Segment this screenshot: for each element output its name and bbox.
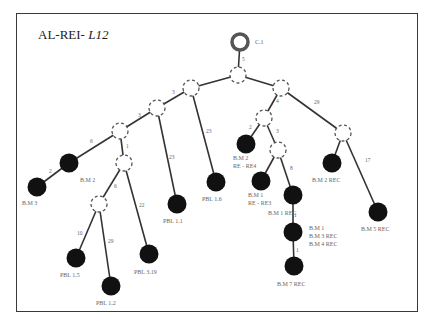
edge-weight-label: 23	[169, 154, 175, 160]
junction-node-icon	[335, 125, 351, 141]
edge-L4-PBL319	[124, 163, 149, 254]
edge-weight-label: 3	[138, 112, 141, 118]
leaf-node-icon	[207, 173, 226, 192]
edge-weight-label: 2	[49, 168, 52, 174]
leaf-node-label: B.M 3	[22, 200, 37, 206]
leaf-node-label: PBL 1.2	[96, 300, 116, 306]
leaf-node-icon	[28, 178, 47, 197]
leaf-node-icon	[168, 195, 187, 214]
leaf-node-icon	[369, 203, 388, 222]
edge-weight-label: 1	[296, 247, 299, 253]
leaf-node-label: B.M 3 REC	[309, 233, 338, 239]
leaf-node-icon	[67, 249, 86, 268]
cut-off-caption	[0, 316, 428, 328]
junction-node-icon	[273, 80, 289, 96]
edge-weight-label: 29	[108, 238, 114, 244]
edge-L5-PBL12	[99, 204, 111, 286]
edge-weight-label: 6	[114, 183, 117, 189]
leaf-node-icon	[323, 154, 342, 173]
root-node-icon	[232, 34, 248, 50]
leaf-node-label: PBL 1.6	[202, 196, 222, 202]
edge-weight-label: 5	[242, 56, 245, 62]
edge-RR-BM5REC	[343, 133, 378, 212]
leaf-node-label: RE - RE4	[233, 163, 256, 169]
edge-weight-label: 3	[172, 89, 175, 95]
leaf-node-icon	[102, 277, 121, 296]
junction-node-icon	[116, 155, 132, 171]
leaf-node-label: B.M 7 REC	[277, 281, 306, 287]
leaf-node-icon	[284, 223, 303, 242]
leaf-node-icon	[60, 154, 79, 173]
junction-node-icon	[256, 110, 272, 126]
leaf-node-label: B.M 1	[248, 192, 263, 198]
root-node-label: C.1	[255, 39, 264, 45]
junction-node-icon	[230, 67, 246, 83]
leaf-node-label: B.M 1	[309, 225, 324, 231]
leaf-node-label: B.M 2	[233, 155, 248, 161]
junction-node-icon	[183, 80, 199, 96]
edge-weight-label: 8	[290, 165, 293, 171]
edge-weight-label: 22	[139, 202, 145, 208]
leaf-node-label: RE - RE3	[248, 200, 271, 206]
edge-weight-label: 23	[206, 128, 212, 134]
edge-weight-label: 2	[249, 124, 252, 130]
edge-weight-label: 29	[314, 99, 320, 105]
edge-weight-label: 4	[276, 98, 279, 104]
leaf-node-label: B.M 5 REC	[361, 226, 390, 232]
junction-node-icon	[270, 142, 286, 158]
leaf-node-label: B.M 4 REC	[309, 241, 338, 247]
edge-weight-label: 3	[276, 128, 279, 134]
leaf-node-label: B.M 2 REC	[312, 177, 341, 183]
leaf-node-icon	[252, 172, 271, 191]
leaf-node-icon	[140, 245, 159, 264]
edge-weight-label: 1	[126, 143, 129, 149]
junction-node-icon	[112, 123, 128, 139]
leaf-node-icon	[284, 186, 303, 205]
junction-node-icon	[149, 100, 165, 116]
junction-node-icon	[91, 196, 107, 212]
leaf-node-label: B.M 2	[80, 177, 95, 183]
nodes-layer	[28, 34, 388, 296]
edge-L1-PBL16	[191, 88, 216, 182]
leaf-node-label: B.M 1 REC	[268, 210, 297, 216]
leaf-node-label: PBL 1.5	[60, 272, 80, 278]
edge-weight-label: 17	[365, 157, 371, 163]
leaf-node-icon	[285, 257, 304, 276]
leaf-node-label: PBL 3.19	[134, 269, 157, 275]
edge-R1-RR	[281, 88, 343, 133]
edge-weight-label: 6	[90, 138, 93, 144]
leaf-node-icon	[237, 135, 256, 154]
tree-diagram: 533621610292223234238112917C.1B.M 2B.M 3…	[0, 0, 428, 328]
edge-weight-label: 10	[77, 230, 83, 236]
leaf-node-label: PBL 1.1	[163, 218, 183, 224]
